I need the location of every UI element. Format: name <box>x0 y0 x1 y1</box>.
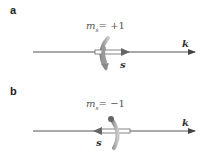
s-label-a: s <box>120 59 126 70</box>
equation-a: ms= +1 <box>86 20 125 33</box>
spin-arrowhead-a <box>121 48 130 56</box>
panel-label-a: a <box>10 4 16 16</box>
equation-value: = −1 <box>99 98 125 109</box>
rotation-arrowhead-b <box>108 116 114 122</box>
panel-label-b: b <box>10 85 17 97</box>
spin-arrowhead-b <box>93 127 102 135</box>
k-label-a: k <box>182 38 189 49</box>
panel-b-graphic <box>33 116 195 148</box>
k-label-b: k <box>182 117 189 128</box>
s-label-b: s <box>96 137 102 148</box>
equation-value: = +1 <box>99 20 125 31</box>
equation-b: ms= −1 <box>86 98 125 111</box>
rotation-arrow-b <box>112 120 118 148</box>
spin-vector-a <box>95 50 122 54</box>
panel-a-graphic <box>33 38 195 71</box>
rotation-arrowhead-a <box>101 63 109 71</box>
